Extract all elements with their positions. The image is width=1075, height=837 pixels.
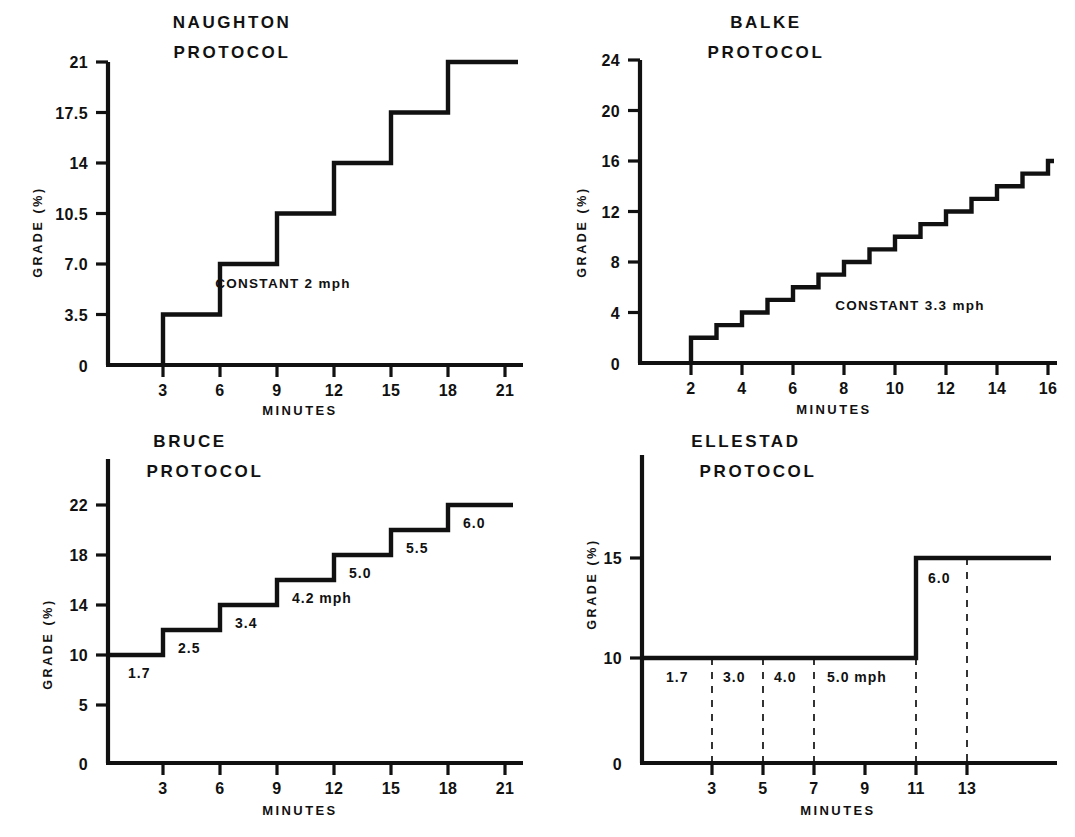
chart-panel-naughton: NAUGHTON PROTOCOL GRADE (%) 21 17.5 14 1… bbox=[0, 0, 537, 418]
bruce-xtick-9: 9 bbox=[272, 780, 281, 797]
naughton-y-axis-label: GRADE (%) bbox=[31, 186, 45, 277]
ellestad-xtick-13: 13 bbox=[958, 780, 977, 797]
naughton-constant-speed-note: CONSTANT 2 mph bbox=[215, 276, 351, 291]
bruce-step-curve bbox=[108, 505, 513, 655]
bruce-title-line1: BRUCE bbox=[153, 432, 226, 451]
balke-ytick-8: 8 bbox=[611, 254, 620, 271]
naughton-ytick-17-5: 17.5 bbox=[55, 105, 88, 122]
bruce-y-axis-label: GRADE (%) bbox=[41, 598, 55, 689]
balke-ytick-4: 4 bbox=[611, 305, 620, 322]
naughton-ytick-0: 0 bbox=[79, 358, 88, 375]
ellestad-speed-label-1: 1.7 bbox=[666, 669, 688, 685]
ellestad-stage-dividers bbox=[712, 558, 967, 763]
bruce-ytick-18: 18 bbox=[69, 547, 88, 564]
balke-step-curve bbox=[691, 161, 1054, 363]
naughton-ytick-21: 21 bbox=[69, 54, 88, 71]
balke-xtick-10: 10 bbox=[886, 380, 905, 397]
bruce-speed-label-1: 1.7 bbox=[128, 665, 150, 681]
bruce-title-line2: PROTOCOL bbox=[147, 462, 264, 481]
balke-ytick-24: 24 bbox=[601, 52, 620, 69]
treadmill-protocols-figure: NAUGHTON PROTOCOL GRADE (%) 21 17.5 14 1… bbox=[0, 0, 1075, 837]
naughton-ytick-3-5: 3.5 bbox=[65, 307, 88, 324]
bruce-ytick-5: 5 bbox=[79, 697, 88, 714]
naughton-title-line1: NAUGHTON bbox=[173, 13, 292, 32]
chart-panel-balke: BALKE PROTOCOL GRADE (%) 24 20 16 12 8 4… bbox=[538, 0, 1075, 418]
naughton-xtick-3: 3 bbox=[158, 382, 167, 399]
balke-title-line2: PROTOCOL bbox=[708, 43, 825, 62]
balke-xtick-16: 16 bbox=[1039, 380, 1058, 397]
balke-xtick-12: 12 bbox=[937, 380, 956, 397]
bruce-ytick-10: 10 bbox=[69, 647, 88, 664]
ellestad-xtick-9: 9 bbox=[860, 780, 869, 797]
naughton-xtick-18: 18 bbox=[439, 382, 458, 399]
bruce-xtick-18: 18 bbox=[439, 780, 458, 797]
bruce-speed-label-2: 2.5 bbox=[178, 640, 200, 656]
ellestad-speed-label-3: 4.0 bbox=[774, 669, 796, 685]
bruce-ytick-14: 14 bbox=[69, 597, 88, 614]
naughton-xtick-9: 9 bbox=[272, 382, 281, 399]
bruce-speed-label-7: 6.0 bbox=[463, 515, 485, 531]
ellestad-speed-label-2: 3.0 bbox=[723, 669, 745, 685]
balke-xtick-6: 6 bbox=[788, 380, 797, 397]
naughton-x-axis-label: MINUTES bbox=[262, 403, 337, 418]
bruce-x-axis-label: MINUTES bbox=[262, 803, 337, 818]
balke-x-axis-label: MINUTES bbox=[796, 402, 871, 417]
ellestad-speed-label-4: 5.0 mph bbox=[827, 669, 887, 685]
balke-chart-svg: BALKE PROTOCOL GRADE (%) 24 20 16 12 8 4… bbox=[538, 0, 1075, 418]
bruce-xtick-15: 15 bbox=[382, 780, 401, 797]
bruce-chart-svg: BRUCE PROTOCOL GRADE (%) 22 18 14 10 5 0 bbox=[0, 419, 537, 837]
ellestad-y-axis-label: GRADE (%) bbox=[585, 538, 599, 629]
ellestad-title-line1: ELLESTAD bbox=[691, 432, 800, 451]
balke-ytick-20: 20 bbox=[601, 103, 620, 120]
ellestad-xtick-3: 3 bbox=[707, 780, 716, 797]
balke-ytick-0: 0 bbox=[611, 356, 620, 373]
balke-xtick-2: 2 bbox=[686, 380, 695, 397]
naughton-xtick-21: 21 bbox=[496, 382, 515, 399]
balke-constant-speed-note: CONSTANT 3.3 mph bbox=[835, 298, 985, 313]
ellestad-chart-svg: ELLESTAD PROTOCOL GRADE (%) 15 10 0 3 5 bbox=[538, 419, 1075, 837]
balke-xtick-4: 4 bbox=[737, 380, 746, 397]
balke-title-line1: BALKE bbox=[730, 13, 802, 32]
balke-xtick-8: 8 bbox=[839, 380, 848, 397]
naughton-xtick-12: 12 bbox=[325, 382, 344, 399]
naughton-chart-svg: NAUGHTON PROTOCOL GRADE (%) 21 17.5 14 1… bbox=[0, 0, 537, 418]
naughton-xtick-15: 15 bbox=[382, 382, 401, 399]
bruce-xtick-12: 12 bbox=[325, 780, 344, 797]
ellestad-xtick-5: 5 bbox=[758, 780, 767, 797]
naughton-xtick-6: 6 bbox=[215, 382, 224, 399]
naughton-ytick-14: 14 bbox=[69, 155, 88, 172]
ellestad-speed-label-5: 6.0 bbox=[928, 570, 950, 586]
bruce-speed-label-4: 4.2 mph bbox=[292, 590, 352, 606]
bruce-xtick-21: 21 bbox=[496, 780, 515, 797]
chart-panel-bruce: BRUCE PROTOCOL GRADE (%) 22 18 14 10 5 0 bbox=[0, 419, 537, 837]
ellestad-x-axis-label: MINUTES bbox=[800, 803, 875, 818]
naughton-ytick-10-5: 10.5 bbox=[55, 206, 88, 223]
balke-ytick-12: 12 bbox=[601, 204, 620, 221]
ellestad-xtick-11: 11 bbox=[907, 780, 925, 797]
naughton-title-line2: PROTOCOL bbox=[174, 43, 291, 62]
balke-xtick-14: 14 bbox=[988, 380, 1007, 397]
balke-ytick-16: 16 bbox=[601, 153, 620, 170]
bruce-xtick-3: 3 bbox=[158, 780, 167, 797]
ellestad-ytick-15: 15 bbox=[603, 550, 622, 567]
chart-panel-ellestad: ELLESTAD PROTOCOL GRADE (%) 15 10 0 3 5 bbox=[538, 419, 1075, 837]
bruce-speed-label-3: 3.4 bbox=[235, 615, 257, 631]
bruce-xtick-6: 6 bbox=[215, 780, 224, 797]
naughton-ytick-7-0: 7.0 bbox=[65, 256, 88, 273]
ellestad-xtick-7: 7 bbox=[809, 780, 818, 797]
bruce-speed-label-5: 5.0 bbox=[349, 565, 371, 581]
naughton-step-curve bbox=[163, 62, 518, 365]
ellestad-title-line2: PROTOCOL bbox=[700, 462, 817, 481]
bruce-speed-label-6: 5.5 bbox=[406, 540, 428, 556]
ellestad-ytick-0: 0 bbox=[613, 756, 622, 773]
bruce-ytick-0: 0 bbox=[79, 756, 88, 773]
ellestad-step-curve bbox=[642, 558, 1051, 658]
ellestad-ytick-10: 10 bbox=[603, 650, 622, 667]
bruce-ytick-22: 22 bbox=[69, 497, 88, 514]
balke-y-axis-label: GRADE (%) bbox=[575, 186, 589, 277]
